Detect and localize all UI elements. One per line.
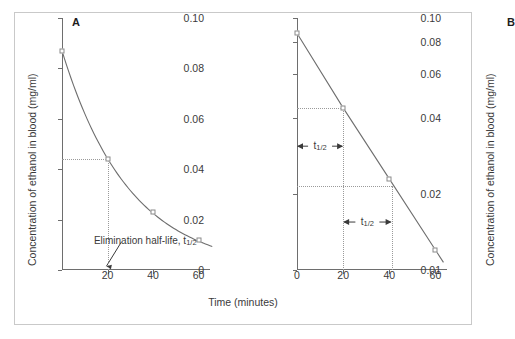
y-tick-label: 0.02 [184, 215, 204, 225]
y-tick-label: 0.04 [421, 113, 441, 123]
x-tick-label: 0 [294, 270, 300, 280]
panel-b-plot-area: 0.010.020.040.060.080.100204060t1/2t1/2 [297, 18, 447, 270]
panel-a-curve [62, 18, 210, 270]
guide-line-horizontal [297, 108, 343, 109]
guide-line-vertical [108, 159, 109, 270]
y-tick [293, 194, 297, 195]
y-tick [58, 220, 62, 221]
y-tick [58, 270, 62, 271]
y-tick-label: 0.04 [184, 164, 204, 174]
panel-b-letter: B [507, 16, 515, 28]
y-tick-label: 0.06 [421, 69, 441, 79]
y-tick [293, 74, 297, 75]
data-point-marker [196, 237, 201, 242]
guide-line-vertical [392, 186, 393, 270]
panel-a-plot-area: 00.020.040.060.080.10204060Elimination h… [62, 18, 210, 270]
guide-line-vertical [343, 108, 344, 270]
y-tick [58, 18, 62, 19]
y-tick-label: 0.02 [421, 189, 441, 199]
panel-b: B Concentration of ethanol in blood (mg/… [229, 0, 458, 313]
data-point-marker [387, 176, 392, 181]
y-tick [293, 118, 297, 119]
x-tick-label: 20 [337, 270, 349, 280]
y-tick-label: 0.08 [184, 63, 204, 73]
data-point-marker [295, 31, 300, 36]
panel-a: A Concentration of ethanol in blood (mg/… [0, 0, 229, 313]
y-tick [293, 42, 297, 43]
t-half-label: t1/2 [313, 140, 326, 152]
x-tick-label: 20 [102, 270, 114, 280]
x-tick-label: 40 [383, 270, 395, 280]
y-tick-label: 0.10 [184, 13, 204, 23]
t-half-label: t1/2 [361, 216, 374, 228]
y-tick-label: 0.08 [421, 37, 441, 47]
y-tick [58, 119, 62, 120]
y-tick-label: 0.10 [421, 13, 441, 23]
data-point-marker [105, 157, 110, 162]
guide-line-horizontal [297, 186, 392, 187]
x-tick-label: 60 [193, 270, 205, 280]
x-axis-title: Time (minutes) [208, 296, 278, 308]
panel-a-y-axis-title: Concentration of ethanol in blood (mg/ml… [26, 73, 38, 266]
y-tick [58, 169, 62, 170]
data-point-marker [60, 48, 65, 53]
data-point-marker [341, 105, 346, 110]
data-point-marker [151, 210, 156, 215]
x-tick-label: 40 [147, 270, 159, 280]
data-point-marker [433, 248, 438, 253]
guide-line-horizontal [62, 159, 108, 160]
y-tick [293, 18, 297, 19]
y-tick-label: 0.06 [184, 114, 204, 124]
x-tick-label: 60 [430, 270, 442, 280]
y-tick [58, 68, 62, 69]
elimination-half-life-annotation: Elimination half-life, t1/2 [94, 235, 197, 247]
panel-b-y-axis-title: Concentration of ethanol in blood (mg/ml… [484, 73, 496, 266]
